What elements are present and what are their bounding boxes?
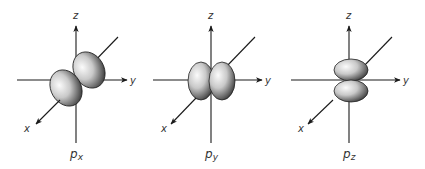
orbital-lobe-bottom [334, 80, 368, 102]
panel-py: z y x py [153, 10, 272, 162]
x-axis-back [362, 37, 392, 68]
p-orbitals-diagram: z y x px z y x py z y x pz [0, 0, 425, 169]
y-axis-label: y [402, 75, 410, 86]
x-axis-front [308, 100, 333, 124]
orbital-title: pz [342, 147, 356, 162]
z-axis-label: z [72, 10, 79, 21]
y-axis-label: y [264, 75, 272, 86]
x-axis-front [36, 100, 60, 124]
z-axis-label: z [207, 10, 214, 21]
x-axis-label: x [160, 123, 167, 134]
panel-px: z y x px [17, 10, 137, 162]
orbital-lobe-top [334, 59, 368, 81]
x-axis-front [171, 98, 196, 124]
orbital-title: py [204, 147, 219, 162]
y-axis-label: y [129, 75, 137, 86]
orbital-lobe-right [209, 62, 235, 100]
x-axis-label: x [297, 123, 304, 134]
z-axis-label: z [345, 10, 352, 21]
panel-pz: z y x pz [291, 10, 410, 162]
x-axis-back [225, 37, 255, 68]
x-axis-label: x [23, 123, 30, 134]
orbital-title: px [69, 147, 84, 162]
